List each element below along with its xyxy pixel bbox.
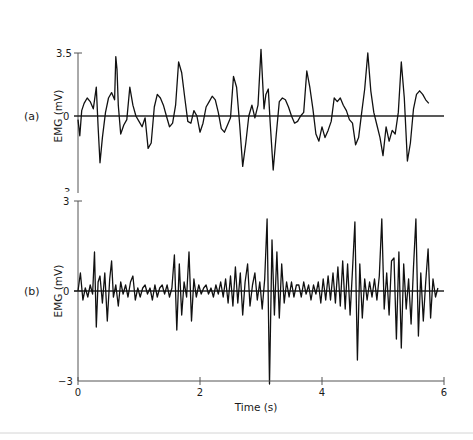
panel-b: 3 0 −3 (b) EMG (mV) bbox=[24, 196, 444, 387]
panel-b-ytick-bottom-label: −3 bbox=[58, 376, 73, 387]
x-axis: 0 2 4 6 Time (s) bbox=[75, 377, 447, 413]
panel-b-label: (b) bbox=[24, 285, 40, 298]
xtick-0-label: 0 bbox=[75, 387, 81, 398]
panel-a-label: (a) bbox=[24, 110, 39, 123]
emg-figure: 3.5 0 3 (a) EMG (mV) 3 0 −3 (b) EMG (mV)… bbox=[0, 0, 473, 440]
panel-a-ytick-top-label: 3.5 bbox=[56, 48, 72, 59]
panel-b-ylabel: EMG (mV) bbox=[52, 265, 64, 318]
xtick-2-label: 2 bbox=[197, 387, 203, 398]
panel-b-emg-trace bbox=[78, 219, 438, 384]
x-axis-title: Time (s) bbox=[234, 401, 278, 413]
xtick-4-label: 4 bbox=[319, 387, 325, 398]
xtick-6-label: 6 bbox=[441, 387, 447, 398]
panel-a-ylabel: EMG (mV) bbox=[52, 90, 64, 143]
panel-a-emg-trace bbox=[78, 49, 429, 170]
panel-b-ytick-top-label: 3 bbox=[63, 196, 69, 207]
panel-a: 3.5 0 3 (a) EMG (mV) bbox=[24, 48, 444, 198]
